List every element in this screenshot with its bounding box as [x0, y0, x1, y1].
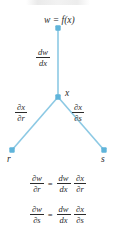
equation-rhs-fraction-1: dw dx: [57, 174, 71, 194]
node-dot-middle: [55, 94, 60, 99]
equation-row: ∂w ∂r = dw dx ∂x ∂r: [0, 168, 116, 199]
fraction-dw-dx: dw dx: [36, 48, 50, 68]
equation-lhs-fraction: ∂w ∂r: [30, 174, 44, 194]
fraction-numerator: ∂x: [15, 103, 27, 113]
chain-rule-tree-figure: w = f(x) x r s dw dx ∂x ∂r ∂x ∂s ∂w ∂r =: [0, 0, 116, 231]
fraction-numerator: dw: [57, 174, 71, 184]
fraction-dx-ds: ∂x ∂s: [72, 103, 84, 123]
fraction-numerator: ∂x: [72, 103, 84, 113]
node-dot-leaf-right: [101, 147, 106, 152]
equals-sign: =: [44, 210, 57, 220]
fraction-denominator: ∂r: [30, 184, 44, 193]
fraction-numerator: ∂w: [30, 205, 44, 215]
fraction-denominator: ∂r: [74, 184, 86, 193]
node-label-leaf-right: s: [101, 155, 105, 165]
equation-rhs-fraction-2: ∂x ∂s: [74, 205, 86, 225]
fraction-denominator: ∂r: [15, 113, 27, 122]
equation-lhs-fraction: ∂w ∂s: [30, 205, 44, 225]
fraction-denominator: ∂s: [30, 215, 44, 224]
fraction-denominator: dx: [36, 58, 50, 67]
equation-rhs-fraction-1: dw dx: [57, 205, 71, 225]
fraction-numerator: ∂x: [74, 174, 86, 184]
fraction-dx-dr: ∂x ∂r: [15, 103, 27, 123]
equals-sign: =: [44, 179, 57, 189]
node-dot-root: [55, 25, 60, 30]
fraction-numerator: dw: [57, 205, 71, 215]
node-label-root: w = f(x): [44, 16, 75, 26]
fraction-denominator: ∂s: [74, 215, 86, 224]
equation-row: ∂w ∂s = dw dx ∂x ∂s: [0, 199, 116, 230]
fraction-numerator: dw: [36, 48, 50, 58]
fraction-numerator: ∂x: [74, 205, 86, 215]
node-label-leaf-left: r: [7, 155, 11, 165]
fraction-denominator: dx: [57, 215, 71, 224]
edge-label-left: ∂x ∂r: [15, 103, 27, 123]
fraction-denominator: ∂s: [72, 113, 84, 122]
node-label-middle: x: [65, 89, 69, 99]
equations-block: ∂w ∂r = dw dx ∂x ∂r ∂w ∂s = dw dx: [0, 168, 116, 230]
fraction-numerator: ∂w: [30, 174, 44, 184]
node-dot-leaf-left: [9, 147, 14, 152]
edge-label-right: ∂x ∂s: [72, 103, 84, 123]
edge-label-trunk: dw dx: [36, 48, 50, 68]
fraction-denominator: dx: [57, 184, 71, 193]
equation-rhs-fraction-2: ∂x ∂r: [74, 174, 86, 194]
